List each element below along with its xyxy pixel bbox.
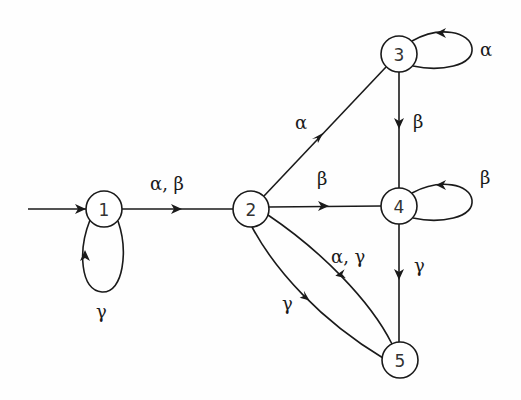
edge-label-5-2: α, γ xyxy=(331,246,365,267)
edge-label-3-4: β xyxy=(413,111,423,132)
edge-4-to-4: β xyxy=(412,167,490,220)
edge-5-to-2: α, γ xyxy=(268,215,392,344)
edge-label-2-4: β xyxy=(317,168,327,189)
state-node-4: 4 xyxy=(381,188,417,224)
state-node-5: 5 xyxy=(382,342,418,378)
edge-1-to-2: α, β xyxy=(122,173,233,214)
state-label-2: 2 xyxy=(246,200,257,220)
edge-2-to-4: β xyxy=(269,168,381,211)
state-label-1: 1 xyxy=(99,200,110,220)
state-label-3: 3 xyxy=(394,45,405,65)
edge-3-to-4: β xyxy=(394,72,423,188)
state-node-2: 2 xyxy=(233,191,269,227)
state-node-1: 1 xyxy=(86,191,122,227)
arrowhead-icon xyxy=(436,28,446,38)
state-node-3: 3 xyxy=(381,36,417,72)
edge-label-1-2: α, β xyxy=(150,173,184,194)
edge-label-3-3: α xyxy=(480,39,492,60)
arrowhead-icon xyxy=(80,250,90,261)
edge-3-to-3: α xyxy=(412,28,492,68)
edge-label-2-5: γ xyxy=(282,293,293,314)
edge-1-to-1: γ xyxy=(80,220,123,322)
edge-label-4-5: γ xyxy=(414,255,425,276)
edge-start-to-1 xyxy=(28,204,86,214)
edge-label-4-4: β xyxy=(480,167,490,188)
edge-label-1-1: γ xyxy=(96,301,107,322)
state-diagram: γ α, β α β γ α, γ xyxy=(0,0,521,400)
state-label-4: 4 xyxy=(394,197,405,217)
edge-label-2-3: α xyxy=(295,112,307,133)
edge-4-to-5: γ xyxy=(394,224,425,342)
arrowhead-icon xyxy=(312,133,323,143)
diagram-svg: γ α, β α β γ α, γ xyxy=(0,0,521,400)
state-label-5: 5 xyxy=(395,351,406,371)
